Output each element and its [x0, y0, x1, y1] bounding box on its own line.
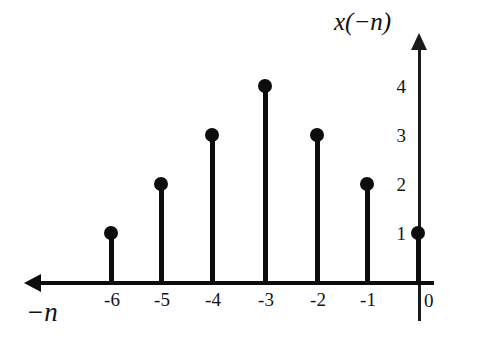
x-tick-label-minus-3: -3: [246, 290, 286, 309]
stem-marker-dot: [205, 128, 219, 142]
x-axis-title: −n: [26, 299, 58, 326]
stem-line: [365, 184, 370, 283]
stem-marker-dot: [104, 226, 118, 240]
y-axis-arrow-icon: [411, 33, 427, 50]
y-axis-title: x(−n): [334, 9, 391, 34]
x-tick-label-minus-6: -6: [92, 290, 132, 309]
stem-line: [210, 135, 215, 283]
x-tick-label-minus-2: -2: [298, 290, 338, 309]
x-tick-label-zero: 0: [424, 291, 444, 310]
x-tick-label-minus-5: -5: [142, 290, 182, 309]
x-axis-line: [38, 281, 434, 285]
stem-line: [315, 135, 320, 283]
y-tick-label-2: 2: [378, 175, 406, 194]
x-tick-label-minus-1: -1: [348, 290, 388, 309]
x-tick-label-minus-4: -4: [193, 290, 233, 309]
stem-line: [159, 184, 164, 283]
x-axis-arrow-icon: [24, 274, 41, 292]
stem-line: [109, 233, 114, 283]
stem-marker-dot: [360, 177, 374, 191]
y-tick-label-4: 4: [378, 77, 406, 96]
stem-marker-dot: [258, 79, 272, 93]
stem-marker-dot: [411, 226, 425, 240]
stem-line: [263, 86, 268, 283]
stem-line: [416, 233, 421, 283]
y-tick-label-1: 1: [378, 224, 406, 243]
stem-plot-figure: x(−n) −n -6 -5 -4 -3 -2 -1 0 1 2 3 4: [0, 0, 485, 340]
y-tick-label-3: 3: [378, 126, 406, 145]
stem-marker-dot: [310, 128, 324, 142]
stem-marker-dot: [154, 177, 168, 191]
